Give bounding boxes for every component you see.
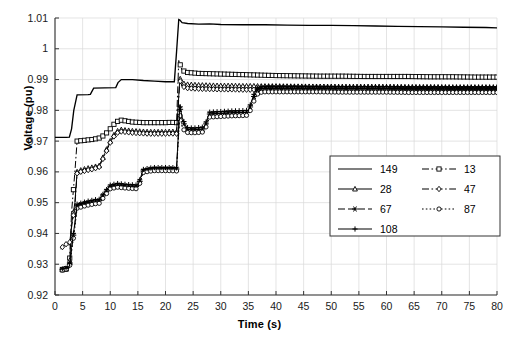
marker-circle xyxy=(437,207,441,211)
chart-figure: 051015202530354045505560657075800.920.93… xyxy=(0,0,519,340)
marker-circle xyxy=(495,90,499,94)
legend-label: 87 xyxy=(464,203,476,215)
marker-square xyxy=(108,127,112,131)
legend-label: 67 xyxy=(380,203,392,215)
y-tick-label: 0.92 xyxy=(28,289,49,301)
x-tick-label: 75 xyxy=(464,300,476,312)
y-axis-label: Voltage (pu) xyxy=(22,58,34,178)
voltage-time-plot: 051015202530354045505560657075800.920.93… xyxy=(0,0,519,340)
marker-square xyxy=(437,167,441,171)
x-tick-label: 10 xyxy=(104,300,116,312)
x-tick-label: 45 xyxy=(298,300,310,312)
legend-label: 13 xyxy=(464,163,476,175)
legend-label: 149 xyxy=(380,163,398,175)
x-tick-label: 65 xyxy=(408,300,420,312)
x-tick-label: 60 xyxy=(381,300,393,312)
legend: 1491328476787108 xyxy=(330,156,500,236)
y-tick-label: 0.93 xyxy=(28,258,49,270)
legend-label: 28 xyxy=(380,183,392,195)
y-tick-label: 1.01 xyxy=(28,12,49,24)
x-tick-label: 0 xyxy=(52,300,58,312)
marker-circle xyxy=(200,130,204,134)
y-tick-label: 1 xyxy=(42,42,48,54)
legend-label: 47 xyxy=(464,183,476,195)
x-tick-label: 35 xyxy=(243,300,255,312)
y-tick-label: 0.94 xyxy=(28,227,49,239)
x-tick-label: 40 xyxy=(270,300,282,312)
x-tick-label: 5 xyxy=(80,300,86,312)
y-tick-label: 0.95 xyxy=(28,196,49,208)
x-tick-label: 25 xyxy=(187,300,199,312)
x-tick-label: 20 xyxy=(160,300,172,312)
marker-square xyxy=(495,75,499,79)
x-tick-label: 15 xyxy=(132,300,144,312)
marker-square xyxy=(104,131,108,135)
x-tick-label: 80 xyxy=(491,300,503,312)
x-tick-label: 55 xyxy=(353,300,365,312)
marker-square xyxy=(178,63,182,67)
x-axis-label: Time (s) xyxy=(0,318,519,330)
marker-square xyxy=(71,188,75,192)
x-tick-label: 30 xyxy=(215,300,227,312)
marker-circle xyxy=(244,113,248,117)
x-tick-label: 70 xyxy=(436,300,448,312)
legend-label: 108 xyxy=(380,223,398,235)
x-tick-label: 50 xyxy=(325,300,337,312)
